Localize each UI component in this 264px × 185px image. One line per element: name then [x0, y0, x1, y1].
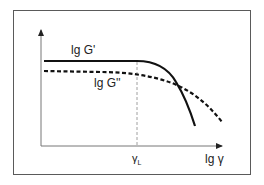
- gamma-l-label: γL: [132, 153, 141, 166]
- x-axis-label: lg γ: [205, 153, 224, 165]
- gamma-subscript: L: [138, 159, 142, 166]
- g-double-prime-curve: [44, 71, 222, 122]
- g-prime-label: lg G': [71, 44, 95, 56]
- g-double-prime-label: lg G'': [94, 77, 121, 89]
